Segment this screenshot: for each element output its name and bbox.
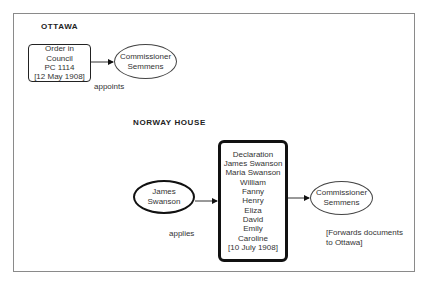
- connector-arrows: [0, 0, 425, 281]
